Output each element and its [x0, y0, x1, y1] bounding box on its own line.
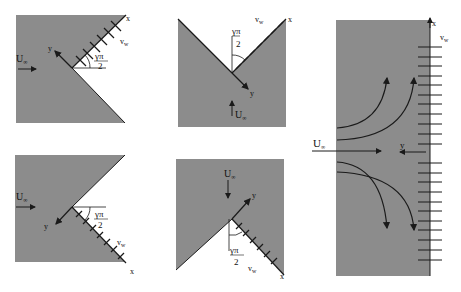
y-axis-label: y — [252, 191, 256, 200]
vw-label: vw — [255, 15, 264, 25]
vw-label: vw — [248, 264, 257, 274]
panel-bottom-middle: U∞ x y vw γπ 2 — [176, 159, 284, 281]
angle-denominator: 2 — [98, 61, 103, 71]
flow-diagram: U∞ x y vw γπ 2 U∞ x y vw γπ 2 — [0, 0, 461, 292]
angle-numerator: γπ — [94, 209, 104, 219]
y-axis-label: y — [48, 44, 52, 53]
angle-denominator: 2 — [234, 257, 239, 267]
angle-denominator: 2 — [98, 220, 103, 230]
angle-numerator: γπ — [231, 26, 241, 36]
y-axis-label: y — [400, 140, 405, 150]
y-axis-label: y — [250, 89, 254, 98]
u-inf-label: U∞ — [313, 137, 325, 150]
vw-label: vw — [440, 33, 449, 43]
x-axis-label: x — [288, 15, 292, 24]
y-axis-label: y — [44, 222, 48, 231]
x-axis-label: x — [280, 272, 284, 281]
x-axis-label: x — [126, 14, 130, 23]
angle-denominator: 2 — [236, 39, 241, 49]
panel-top-left: U∞ x y vw γπ 2 — [16, 14, 130, 123]
panel-bottom-left: U∞ x y vw γπ 2 — [15, 155, 134, 276]
vw-label: vw — [117, 238, 126, 248]
panel-right: U∞ x y vw — [312, 18, 449, 276]
x-axis-label: x — [432, 19, 436, 28]
angle-numerator: γπ — [94, 51, 104, 61]
angle-numerator: γπ — [229, 245, 239, 255]
x-axis-label: x — [130, 267, 134, 276]
vw-label: vw — [120, 37, 129, 47]
panel-top-middle: U∞ x y vw γπ 2 — [178, 15, 292, 127]
